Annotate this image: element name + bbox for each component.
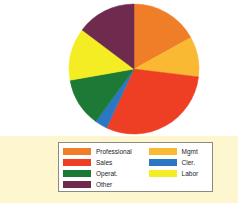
legend-swatch-other xyxy=(63,181,91,188)
legend-band: ProfessionalSalesOperat.Other MgmtCler.L… xyxy=(0,136,238,203)
legend-entry-operat[interactable]: Operat. xyxy=(63,168,148,179)
legend-label-operat: Operat. xyxy=(91,170,118,177)
legend-entry-mgmt[interactable]: Mgmt xyxy=(149,146,212,157)
legend-label-other: Other xyxy=(91,181,112,188)
legend-swatch-labor xyxy=(149,170,177,177)
plot-area xyxy=(0,0,238,136)
legend-box: ProfessionalSalesOperat.Other MgmtCler.L… xyxy=(58,142,213,192)
pie-chart-figure: ProfessionalSalesOperat.Other MgmtCler.L… xyxy=(0,0,238,203)
legend-swatch-sales xyxy=(63,159,91,166)
legend-swatch-mgmt xyxy=(149,148,177,155)
legend-label-labor: Labor xyxy=(177,170,199,177)
legend-entry-other[interactable]: Other xyxy=(63,179,148,190)
pie-slice-group xyxy=(69,4,199,134)
legend-label-sales: Sales xyxy=(91,159,112,166)
legend-swatch-cler xyxy=(149,159,177,166)
legend-label-cler: Cler. xyxy=(177,159,195,166)
legend-entry-professional[interactable]: Professional xyxy=(63,146,148,157)
legend-entry-cler[interactable]: Cler. xyxy=(149,157,212,168)
legend-swatch-operat xyxy=(63,170,91,177)
legend-swatch-professional xyxy=(63,148,91,155)
legend-column-left: ProfessionalSalesOperat.Other xyxy=(59,146,148,191)
pie-chart xyxy=(67,2,201,136)
legend-entry-labor[interactable]: Labor xyxy=(149,168,212,179)
legend-label-professional: Professional xyxy=(91,148,132,155)
pie-svg xyxy=(67,2,201,136)
legend-column-right: MgmtCler.Labor xyxy=(148,146,212,191)
legend-label-mgmt: Mgmt xyxy=(177,148,198,155)
legend-entry-sales[interactable]: Sales xyxy=(63,157,148,168)
